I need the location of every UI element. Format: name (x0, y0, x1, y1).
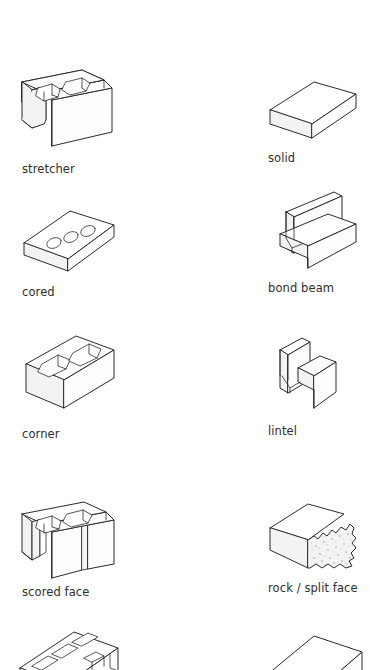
solid-label: solid (268, 152, 295, 165)
lintel-block-icon (270, 330, 350, 420)
solid-block-icon (262, 72, 362, 147)
scored-face-block-icon (14, 490, 126, 590)
block-type-catalog: stretcher solid cored (0, 0, 370, 670)
cropped-row (0, 628, 370, 670)
stretcher-block-icon (14, 58, 124, 158)
rock-split-face-label: rock / split face (268, 582, 358, 595)
stretcher-label: stretcher (22, 163, 75, 176)
cored-label: cored (22, 286, 55, 299)
plain-block-icon (266, 632, 370, 670)
bond-beam-label: bond beam (268, 282, 334, 295)
slotted-block-icon (18, 628, 138, 670)
cored-block-icon (14, 203, 124, 275)
rock-split-face-block-icon (264, 498, 364, 584)
bond-beam-block-icon (258, 190, 366, 280)
corner-block-icon (18, 330, 122, 420)
scored-face-label: scored face (22, 586, 89, 599)
lintel-label: lintel (268, 425, 297, 438)
corner-label: corner (22, 428, 60, 441)
